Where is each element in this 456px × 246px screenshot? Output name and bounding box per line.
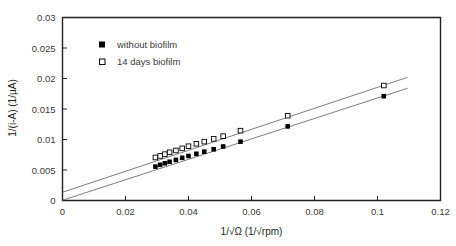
data-point-filled-square [186, 154, 191, 159]
data-point-filled-square [180, 156, 185, 161]
data-point-open-square [382, 83, 387, 88]
data-point-open-square [174, 148, 179, 153]
x-tick-label: 0 [60, 206, 65, 217]
y-tick-label: 0.02 [37, 73, 56, 84]
trend-line-without-biofilm [63, 88, 408, 200]
data-point-open-square [194, 141, 199, 146]
data-point-filled-square [167, 159, 172, 164]
legend-marker-open-square [100, 59, 106, 65]
x-axis-title: 1/√Ω (1/√rpm) [221, 226, 283, 237]
x-axis-tick-labels: 00.020.040.060.080.10.12 [60, 206, 450, 217]
data-point-open-square [221, 134, 226, 139]
y-tick-label: 0.03 [37, 12, 56, 23]
trend-line-14-days-biofilm [63, 77, 408, 192]
chart-figure: 00.020.040.060.080.10.12 00.0050.010.015… [0, 0, 456, 246]
y-axis-tick-labels: 00.0050.010.0150.020.0250.03 [32, 12, 56, 206]
trend-lines [63, 77, 408, 200]
data-point-filled-square [211, 147, 216, 152]
data-point-open-square [238, 128, 243, 133]
y-tick-label: 0.025 [32, 43, 56, 54]
data-point-filled-square [158, 163, 163, 168]
scatter-plot: 00.020.040.060.080.10.12 00.0050.010.015… [0, 0, 456, 246]
data-point-filled-square [202, 149, 207, 154]
y-tick-label: 0 [50, 195, 55, 206]
data-point-open-square [167, 150, 172, 155]
data-point-open-square [211, 137, 216, 142]
y-tick-label: 0.01 [37, 134, 56, 145]
legend-label-without-biofilm: without biofilm [116, 39, 177, 50]
x-tick-label: 0.12 [431, 206, 450, 217]
data-point-filled-square [382, 94, 387, 99]
y-tick-label: 0.005 [32, 165, 56, 176]
legend: without biofilm 14 days biofilm [99, 39, 180, 68]
legend-label-14-days-biofilm: 14 days biofilm [117, 56, 180, 67]
data-point-open-square [153, 155, 158, 160]
data-point-open-square [163, 152, 168, 157]
data-point-filled-square [153, 164, 158, 169]
legend-marker-filled-square [99, 42, 105, 48]
data-point-filled-square [194, 152, 199, 157]
data-point-filled-square [285, 124, 290, 129]
data-point-open-square [186, 144, 191, 149]
x-tick-label: 0.1 [371, 206, 384, 217]
x-tick-label: 0.08 [305, 206, 324, 217]
y-axis-title: 1/(i-A) (1/µA) [7, 79, 18, 136]
data-point-filled-square [174, 158, 179, 163]
x-tick-label: 0.06 [242, 206, 261, 217]
x-tick-label: 0.04 [179, 206, 198, 217]
data-point-open-square [158, 154, 163, 159]
data-point-open-square [180, 146, 185, 151]
data-point-filled-square [163, 161, 168, 166]
y-tick-label: 0.015 [32, 104, 56, 115]
data-point-filled-square [238, 139, 243, 144]
data-point-filled-square [221, 144, 226, 149]
x-tick-label: 0.02 [116, 206, 135, 217]
data-point-open-square [202, 139, 207, 144]
data-point-open-square [285, 113, 290, 118]
